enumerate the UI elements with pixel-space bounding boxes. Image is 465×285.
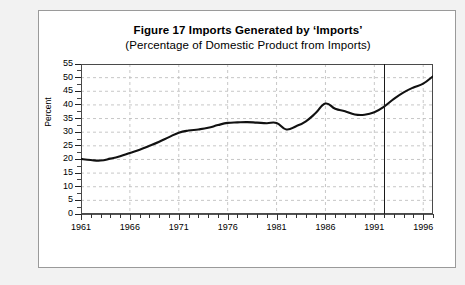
x-tick-mark (189, 214, 190, 218)
x-tick-mark (404, 214, 405, 218)
y-tick-label: 50 (49, 72, 73, 82)
x-tick-mark (140, 214, 141, 218)
x-tick-mark (423, 214, 424, 220)
figure-subtitle: (Percentage of Domestic Product from Imp… (39, 39, 457, 51)
x-tick-mark (91, 214, 92, 218)
data-line (81, 64, 433, 214)
x-tick-mark (218, 214, 219, 218)
y-tick-label: 20 (49, 153, 73, 163)
x-tick-mark (169, 214, 170, 218)
figure-card: Figure 17 Imports Generated by ‘Imports’… (38, 10, 456, 268)
x-tick-label: 1986 (307, 222, 343, 232)
x-tick-mark (247, 214, 248, 218)
y-tick-label: 5 (49, 194, 73, 204)
plot-area (81, 64, 433, 214)
y-tick-label: 0 (49, 208, 73, 218)
y-tick-label: 15 (49, 167, 73, 177)
x-tick-mark (316, 214, 317, 218)
y-tick-label: 55 (49, 58, 73, 68)
x-tick-label: 1991 (356, 222, 392, 232)
reference-vertical-line (384, 64, 385, 214)
x-tick-mark (345, 214, 346, 218)
x-tick-mark (384, 214, 385, 218)
series-line (81, 76, 433, 160)
y-tick-label: 35 (49, 113, 73, 123)
x-tick-label: 1996 (405, 222, 441, 232)
x-tick-mark (257, 214, 258, 218)
page-root: Figure 17 Imports Generated by ‘Imports’… (0, 0, 465, 285)
x-tick-mark (267, 214, 268, 218)
x-tick-mark (394, 214, 395, 218)
x-tick-mark (208, 214, 209, 218)
x-tick-mark (296, 214, 297, 218)
x-tick-mark (355, 214, 356, 218)
x-tick-mark (237, 214, 238, 218)
x-tick-mark (110, 214, 111, 218)
x-tick-mark (306, 214, 307, 218)
x-tick-mark (130, 214, 131, 220)
y-tick-label: 40 (49, 99, 73, 109)
x-tick-mark (228, 214, 229, 220)
x-tick-mark (374, 214, 375, 220)
x-tick-mark (277, 214, 278, 220)
y-tick-label: 10 (49, 181, 73, 191)
x-tick-mark (335, 214, 336, 218)
x-tick-label: 1961 (63, 222, 99, 232)
x-tick-mark (120, 214, 121, 218)
y-tick-label: 30 (49, 126, 73, 136)
x-tick-mark (413, 214, 414, 218)
x-tick-label: 1971 (161, 222, 197, 232)
x-tick-label: 1966 (112, 222, 148, 232)
x-tick-mark (101, 214, 102, 218)
y-tick-label: 45 (49, 85, 73, 95)
x-tick-label: 1976 (210, 222, 246, 232)
x-tick-mark (81, 214, 82, 220)
figure-title: Figure 17 Imports Generated by ‘Imports’ (39, 24, 457, 36)
figure-title-block: Figure 17 Imports Generated by ‘Imports’… (39, 24, 457, 51)
y-tick-label: 25 (49, 140, 73, 150)
x-tick-mark (365, 214, 366, 218)
x-tick-mark (433, 214, 434, 218)
x-tick-label: 1981 (259, 222, 295, 232)
x-tick-mark (159, 214, 160, 218)
x-tick-mark (198, 214, 199, 218)
x-tick-mark (286, 214, 287, 218)
x-tick-mark (325, 214, 326, 220)
x-tick-mark (149, 214, 150, 218)
x-tick-mark (179, 214, 180, 220)
